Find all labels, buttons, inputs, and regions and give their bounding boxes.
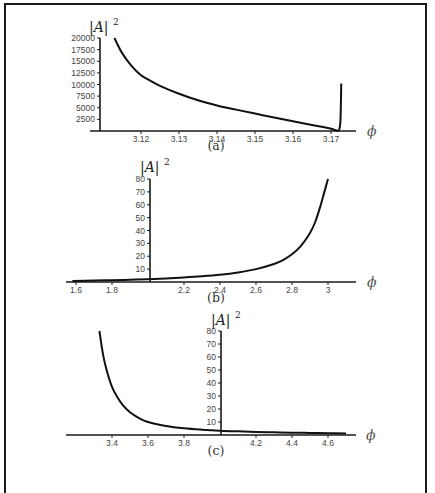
y-axis-label-exponent: 2 — [164, 157, 170, 167]
chart-panel-c: 10203040506070803.43.63.84.24.44.6|A|2ϕ(… — [66, 310, 376, 458]
data-curve-b — [72, 179, 328, 281]
y-axis-label: |A| — [211, 312, 231, 329]
y-tick-label: 50 — [136, 213, 146, 223]
x-tick-label: 1.6 — [70, 285, 82, 295]
y-tick-label: 12500 — [71, 68, 95, 78]
y-tick-label: 70 — [207, 339, 217, 349]
y-tick-label: 30 — [136, 238, 146, 248]
y-axis-label-exponent: 2 — [113, 17, 119, 27]
x-tick-label: 4.4 — [286, 438, 298, 448]
y-tick-label: 5000 — [76, 103, 95, 113]
x-tick-label: 3.16 — [285, 134, 302, 144]
y-axis-label: |A| — [140, 159, 160, 176]
x-tick-label: 2.8 — [286, 285, 298, 295]
y-tick-label: 60 — [136, 200, 146, 210]
data-curve-a — [114, 38, 341, 131]
x-tick-label: 4.6 — [322, 438, 334, 448]
y-axis-label-exponent: 2 — [235, 310, 241, 320]
x-tick-label: 3.6 — [142, 438, 154, 448]
y-tick-label: 40 — [207, 378, 217, 388]
y-tick-label: 15000 — [71, 56, 95, 66]
y-axis-label: |A| — [89, 19, 109, 36]
y-tick-label: 10000 — [71, 80, 95, 90]
y-tick-label: 50 — [207, 365, 217, 375]
y-tick-label: 70 — [136, 187, 146, 197]
x-tick-label: 3.4 — [106, 438, 118, 448]
y-tick-label: 17500 — [71, 45, 95, 55]
y-tick-label: 40 — [136, 226, 146, 236]
chart-panel-b: 10203040506070801.61.82.22.42.62.83|A|2ϕ… — [66, 157, 377, 305]
y-tick-label: 7500 — [76, 91, 95, 101]
x-tick-label: 3.12 — [133, 134, 150, 144]
y-tick-label: 80 — [136, 174, 146, 184]
y-tick-label: 10 — [136, 264, 146, 274]
y-tick-label: 60 — [207, 352, 217, 362]
x-tick-label: 2.6 — [250, 285, 262, 295]
panel-caption: (c) — [208, 443, 225, 458]
x-tick-label: 3.15 — [247, 134, 264, 144]
data-curve-c — [99, 331, 346, 433]
x-tick-label: 3 — [326, 285, 331, 295]
y-tick-label: 30 — [207, 391, 217, 401]
y-tick-label: 10 — [207, 417, 217, 427]
x-axis-label-phi: ϕ — [367, 274, 377, 290]
y-tick-label: 20 — [207, 404, 217, 414]
y-tick-label: 20 — [136, 251, 146, 261]
x-tick-label: 2.2 — [178, 285, 190, 295]
x-axis-label-phi: ϕ — [366, 427, 376, 443]
panel-caption: (b) — [207, 290, 225, 305]
y-tick-label: 2500 — [76, 114, 95, 124]
x-tick-label: 3.13 — [171, 134, 188, 144]
panel-caption: (a) — [207, 138, 224, 153]
chart-panel-a: 25005000750010000125001500017500200003.1… — [71, 17, 377, 153]
x-tick-label: 3.17 — [323, 134, 340, 144]
x-tick-label: 4.2 — [250, 438, 262, 448]
x-axis-label-phi: ϕ — [367, 123, 377, 139]
x-tick-label: 1.8 — [106, 285, 118, 295]
x-tick-label: 3.8 — [178, 438, 190, 448]
